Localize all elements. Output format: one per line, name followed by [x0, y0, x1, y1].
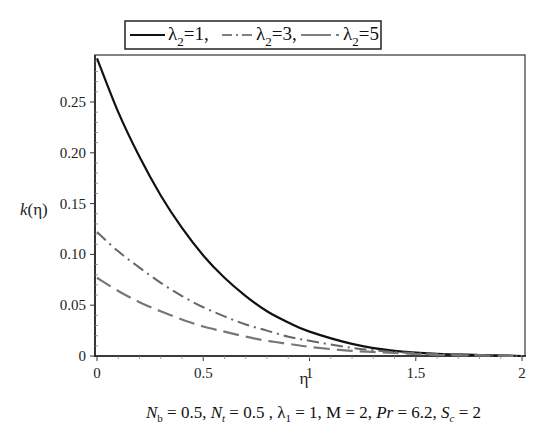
x-axis-title: η: [300, 369, 309, 388]
parameter-caption: Nb = 0.5, Nt = 0.5 , λ1 = 1, M = 2, Pr =…: [146, 403, 481, 424]
chart: λ2=1, λ2=3, λ2=5 00.050.100.150.200.2500…: [0, 0, 547, 441]
x-tick-label: 2: [518, 365, 526, 381]
y-tick-label: 0.15: [60, 196, 86, 212]
y-axis-title: k(η): [20, 200, 48, 219]
x-tick-label: 0.5: [194, 365, 213, 381]
y-tick-label: 0.20: [60, 145, 86, 161]
legend: λ2=1, λ2=3, λ2=5: [125, 21, 381, 49]
y-tick-label: 0.05: [60, 297, 86, 313]
x-tick-label: 1.5: [406, 365, 425, 381]
y-tick-label: 0.10: [60, 246, 86, 262]
y-tick-label: 0: [79, 348, 87, 364]
x-tick-label: 0: [93, 365, 101, 381]
y-tick-label: 0.25: [60, 94, 86, 110]
